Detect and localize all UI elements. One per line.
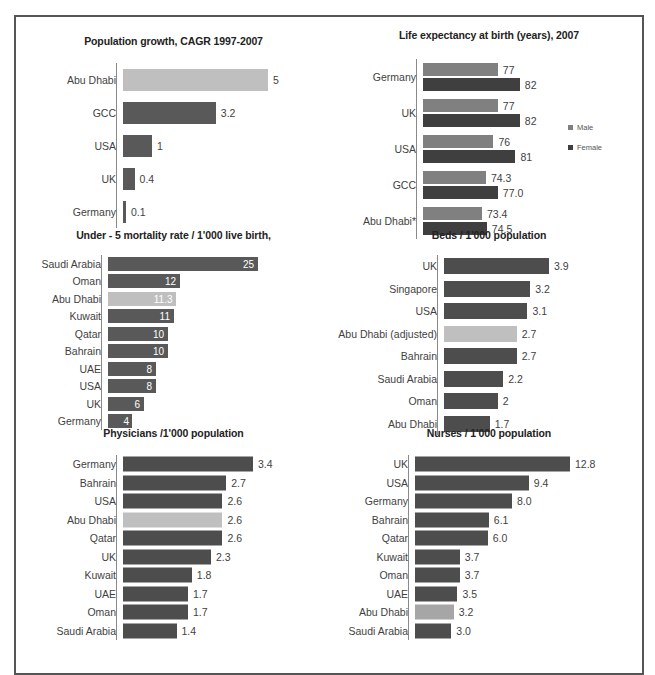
category-label: UAE <box>332 588 415 600</box>
bar-value-label: 12.8 <box>570 458 595 470</box>
chart-row: UAE3.5 <box>332 585 646 604</box>
chart-nurses: Nurses / 1'000 population UK12.8USA9.4Ge… <box>332 427 646 640</box>
chart-row: USA8 <box>16 378 331 396</box>
bar <box>415 586 457 601</box>
bar-value-label: 3.1 <box>527 305 547 317</box>
bar-value-label: 1.7 <box>188 606 208 618</box>
chart-row: Saudi Arabia3.0 <box>332 622 646 641</box>
bar-value-label: 3.7 <box>460 569 480 581</box>
bar-track: 1.8 <box>123 566 331 585</box>
bar-value-label: 3.7 <box>460 551 480 563</box>
bar-track: 11 <box>108 308 331 326</box>
bar-track: 3.0 <box>415 622 646 641</box>
bar <box>123 605 188 620</box>
chart-row: USA2.6 <box>16 492 331 511</box>
chart-row: Bahrain6.1 <box>332 511 646 530</box>
bar-value-label: 1.7 <box>188 588 208 600</box>
bar-track: 2.6 <box>123 492 331 511</box>
bar-value-label: 2.7 <box>517 328 537 340</box>
chart-row: Abu Dhabi (adjusted)2.7 <box>332 323 646 346</box>
category-label: GCC <box>16 107 123 119</box>
bar-segment-male <box>423 63 498 76</box>
bar-value-label: 8 <box>134 363 152 374</box>
bar-value-label: 2.6 <box>222 532 242 544</box>
bar <box>123 475 226 490</box>
bar-track: 3.2 <box>415 603 646 622</box>
chart-row: Germany0.1 <box>16 195 331 228</box>
bar-track: 2.7 <box>444 323 646 346</box>
category-label: Germany <box>332 495 415 507</box>
bar-segment-male <box>423 99 498 112</box>
bar-value-label: 82 <box>520 79 537 91</box>
chart-row: Germany8.0 <box>332 492 646 511</box>
category-label: Germany <box>332 71 423 83</box>
bar-track: 6 <box>108 395 331 413</box>
bar-value-label: 11 <box>152 311 170 322</box>
category-label: UK <box>332 107 423 119</box>
chart-title-population-growth: Population growth, CAGR 1997-2007 <box>16 35 331 47</box>
bar-value-label: 81 <box>515 151 532 163</box>
chart-row: Qatar10 <box>16 325 331 343</box>
chart-row: Saudi Arabia1.4 <box>16 622 331 641</box>
bar <box>123 102 216 124</box>
bar-track: 8.0 <box>415 492 646 511</box>
bar-track: 25 <box>108 255 331 273</box>
category-label: Kuwait <box>332 551 415 563</box>
chart-row: Abu Dhabi3.2 <box>332 603 646 622</box>
chart-row: Oman3.7 <box>332 566 646 585</box>
chart-row: Saudi Arabia25 <box>16 255 331 273</box>
bar-value-label: 3.2 <box>216 107 236 119</box>
legend-item-female: Female <box>568 143 602 152</box>
bar <box>123 135 152 157</box>
bar-value-label: 12 <box>158 276 176 287</box>
bar-value-label: 0.4 <box>135 173 155 185</box>
chart-row: UAE1.7 <box>16 585 331 604</box>
category-label: Qatar <box>332 532 415 544</box>
chart-row: Abu Dhabi11.3 <box>16 290 331 308</box>
bar-value-label: 1.4 <box>177 625 197 637</box>
category-label: Saudi Arabia <box>332 625 415 637</box>
category-label: UK <box>16 398 108 410</box>
bar-track: 7782 <box>423 59 646 95</box>
chart-legend: MaleFemale <box>568 123 602 163</box>
category-label: GCC <box>332 179 423 191</box>
bar <box>415 512 489 527</box>
bar <box>123 586 188 601</box>
category-label: USA <box>16 380 108 392</box>
bar-value-label: 8.0 <box>512 495 532 507</box>
category-label: Abu Dhabi <box>16 74 123 86</box>
chart-plot-area-beds: UK3.9Singapore3.2USA3.1Abu Dhabi (adjust… <box>332 255 646 435</box>
bar-track: 2.3 <box>123 548 331 567</box>
category-label: USA <box>332 305 444 317</box>
chart-plot-area-under5-mortality: Saudi Arabia25Oman12Abu Dhabi11.3Kuwait1… <box>16 255 331 430</box>
bar-track: 3.2 <box>444 278 646 301</box>
bar-track: 6.1 <box>415 511 646 530</box>
bar <box>444 393 498 409</box>
bar <box>415 475 529 490</box>
bar-value-label: 77.0 <box>498 187 523 199</box>
category-label: Saudi Arabia <box>16 258 108 270</box>
bar-track: 1.7 <box>123 585 331 604</box>
chart-plot-area-nurses: UK12.8USA9.4Germany8.0Bahrain6.1Qatar6.0… <box>332 455 646 640</box>
bar-segment-male <box>423 135 493 148</box>
bar-value-label: 6 <box>122 398 140 409</box>
bar-value-label: 76 <box>493 136 510 148</box>
bar-track: 2.6 <box>123 511 331 530</box>
bar-segment-male <box>423 171 486 184</box>
bar-track: 5 <box>123 63 331 96</box>
bar-track: 3.4 <box>123 455 331 474</box>
bar-track: 2.2 <box>444 368 646 391</box>
bar-value-label: 74.3 <box>486 172 511 184</box>
bar <box>444 371 503 387</box>
category-label: Qatar <box>16 532 123 544</box>
bar <box>123 568 192 583</box>
chart-under5-mortality: Under - 5 mortality rate / 1'000 live bi… <box>16 229 331 430</box>
bar-value-label: 3.9 <box>549 260 569 272</box>
chart-title-nurses: Nurses / 1'000 population <box>332 427 646 439</box>
bar-value-label: 11.3 <box>154 293 172 304</box>
category-label: Germany <box>16 206 123 218</box>
bar <box>415 531 488 546</box>
category-label: USA <box>16 495 123 507</box>
chart-row: USA9.4 <box>332 474 646 493</box>
bar <box>444 348 517 364</box>
